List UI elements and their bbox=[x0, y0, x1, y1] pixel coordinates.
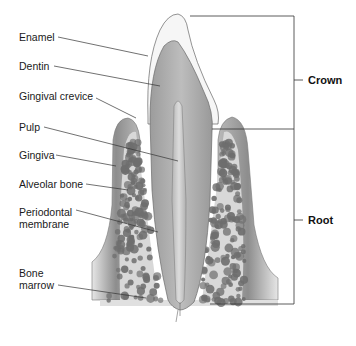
marrow-spot bbox=[234, 298, 243, 307]
marrow-spot bbox=[241, 244, 245, 248]
label-enamel: Enamel bbox=[19, 31, 55, 43]
marrow-spot bbox=[219, 141, 225, 147]
marrow-spot bbox=[142, 274, 150, 282]
marrow-spot bbox=[120, 292, 129, 301]
tooth-diagram: Enamel Dentin Gingival crevice Pulp Ging… bbox=[0, 0, 356, 346]
marrow-spot bbox=[140, 202, 148, 210]
label-root: Root bbox=[308, 214, 333, 226]
label-gingiva: Gingiva bbox=[19, 149, 55, 161]
marrow-spot bbox=[228, 282, 233, 287]
label-alveolar-bone: Alveolar bone bbox=[19, 178, 83, 190]
marrow-spot bbox=[132, 144, 141, 153]
marrow-spot bbox=[221, 255, 226, 260]
marrow-spot bbox=[221, 158, 226, 163]
marrow-spot bbox=[140, 178, 145, 183]
marrow-spot bbox=[132, 193, 136, 197]
marrow-spot bbox=[217, 167, 225, 175]
marrow-spot bbox=[158, 298, 163, 303]
marrow-spot bbox=[116, 268, 121, 273]
marrow-spot bbox=[142, 183, 146, 187]
label-dentin: Dentin bbox=[19, 60, 49, 72]
marrow-spot bbox=[134, 230, 139, 235]
marrow-spot bbox=[231, 274, 238, 281]
marrow-spot bbox=[225, 204, 231, 210]
marrow-spot bbox=[242, 297, 246, 301]
marrow-spot bbox=[125, 154, 133, 162]
marrow-spot bbox=[218, 219, 222, 223]
marrow-spot bbox=[153, 275, 159, 281]
label-gingival-crevice: Gingival crevice bbox=[19, 90, 93, 102]
marrow-spot bbox=[223, 298, 229, 304]
tooth-illustration bbox=[0, 0, 356, 346]
label-pulp: Pulp bbox=[19, 121, 40, 133]
label-bone-marrow: Bone marrow bbox=[19, 267, 54, 291]
marrow-spot bbox=[112, 254, 117, 259]
marrow-spot bbox=[211, 217, 217, 223]
marrow-spot bbox=[141, 266, 146, 271]
marrow-spot bbox=[211, 243, 220, 252]
marrow-spot bbox=[154, 283, 160, 289]
marrow-spot bbox=[129, 215, 135, 221]
marrow-spot bbox=[138, 255, 143, 260]
marrow-spot bbox=[227, 212, 235, 220]
marrow-spot bbox=[135, 166, 142, 173]
marrow-spot bbox=[205, 282, 210, 287]
marrow-spot bbox=[223, 228, 231, 236]
marrow-spot bbox=[140, 283, 146, 289]
marrow-spot bbox=[115, 229, 121, 235]
marrow-spot bbox=[143, 188, 147, 192]
marrow-spot bbox=[230, 238, 235, 243]
marrow-spot bbox=[120, 193, 128, 201]
marrow-spot bbox=[113, 246, 117, 250]
marrow-spot bbox=[125, 257, 129, 261]
marrow-spot bbox=[236, 287, 241, 292]
marrow-spot bbox=[147, 255, 153, 261]
marrow-spot bbox=[106, 293, 112, 299]
marrow-spot bbox=[128, 280, 134, 286]
marrow-spot bbox=[117, 240, 126, 249]
marrow-spot bbox=[121, 266, 128, 273]
marrow-spot bbox=[234, 269, 238, 273]
marrow-spot bbox=[237, 253, 242, 258]
marrow-spot bbox=[146, 246, 151, 251]
marrow-spot bbox=[240, 276, 248, 284]
marrow-spot bbox=[221, 283, 227, 289]
label-periodontal-membrane: Periodontal membrane bbox=[19, 206, 72, 230]
marrow-spot bbox=[204, 295, 211, 302]
marrow-spot bbox=[122, 247, 130, 255]
marrow-spot bbox=[130, 235, 134, 239]
marrow-spot bbox=[201, 278, 205, 282]
marrow-spot bbox=[123, 229, 131, 237]
marrow-spot bbox=[138, 243, 143, 248]
marrow-spot bbox=[206, 256, 210, 260]
marrow-spot bbox=[223, 267, 232, 276]
marrow-spot bbox=[236, 213, 243, 220]
marrow-spot bbox=[131, 180, 135, 184]
marrow-spot bbox=[139, 231, 148, 240]
marrow-spot bbox=[236, 197, 242, 203]
marrow-spot bbox=[134, 157, 142, 165]
marrow-spot bbox=[125, 163, 130, 168]
marrow-spot bbox=[216, 182, 224, 190]
marrow-spot bbox=[228, 170, 233, 175]
marrow-spot bbox=[216, 214, 221, 219]
marrow-spot bbox=[117, 274, 123, 280]
marrow-spot bbox=[223, 179, 229, 185]
marrow-spot bbox=[210, 233, 217, 240]
marrow-spot bbox=[135, 194, 142, 201]
marrow-spot bbox=[228, 150, 235, 157]
marrow-spot bbox=[153, 296, 158, 301]
marrow-spot bbox=[236, 294, 240, 298]
marrow-spot bbox=[132, 258, 137, 263]
label-crown: Crown bbox=[308, 74, 342, 86]
marrow-spot bbox=[230, 182, 238, 190]
marrow-spot bbox=[137, 271, 144, 278]
marrow-spot bbox=[107, 298, 111, 302]
marrow-spot bbox=[225, 244, 234, 253]
marrow-spot bbox=[220, 208, 225, 213]
marrow-spot bbox=[235, 191, 240, 196]
marrow-spot bbox=[232, 169, 240, 177]
marrow-spot bbox=[213, 292, 221, 300]
marrow-spot bbox=[209, 271, 218, 280]
marrow-spot bbox=[139, 220, 146, 227]
